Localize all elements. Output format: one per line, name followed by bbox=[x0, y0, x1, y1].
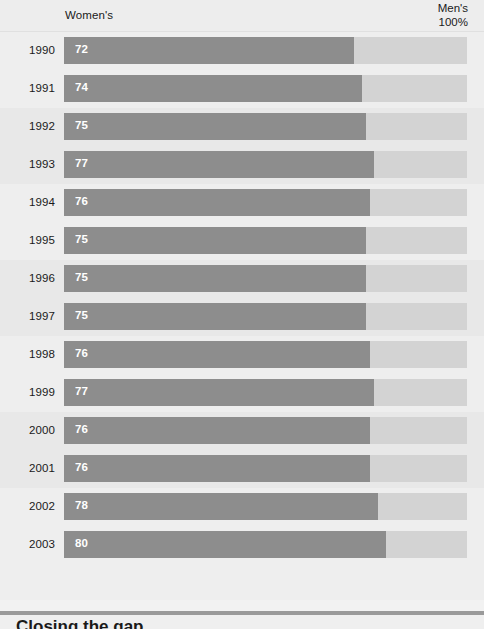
bar-fill: 77 bbox=[64, 379, 374, 406]
bar-value-label: 78 bbox=[75, 499, 88, 511]
bar-fill: 80 bbox=[64, 531, 386, 558]
row-year-label: 1998 bbox=[0, 348, 55, 360]
bar-track: 75 bbox=[64, 265, 467, 292]
table-row: 199476 bbox=[0, 184, 484, 222]
bar-value-label: 76 bbox=[75, 423, 88, 435]
bar-value-label: 75 bbox=[75, 119, 88, 131]
row-year-label: 2000 bbox=[0, 424, 55, 436]
row-year-label: 1996 bbox=[0, 272, 55, 284]
row-year-label: 2003 bbox=[0, 538, 55, 550]
chart-page: Women's Men's 100% 199072199174199275199… bbox=[0, 0, 484, 629]
bar-track: 75 bbox=[64, 113, 467, 140]
table-row: 199876 bbox=[0, 336, 484, 374]
table-row: 199377 bbox=[0, 146, 484, 184]
bar-fill: 74 bbox=[64, 75, 362, 102]
table-row: 200076 bbox=[0, 412, 484, 450]
row-year-label: 1993 bbox=[0, 158, 55, 170]
bar-track: 75 bbox=[64, 227, 467, 254]
bar-fill: 75 bbox=[64, 303, 366, 330]
bar-value-label: 75 bbox=[75, 233, 88, 245]
bar-track: 77 bbox=[64, 151, 467, 178]
bar-value-label: 74 bbox=[75, 81, 88, 93]
bar-fill: 75 bbox=[64, 265, 366, 292]
footer-gap bbox=[0, 600, 484, 611]
chart-header: Women's Men's 100% bbox=[0, 0, 484, 31]
footer-divider bbox=[0, 611, 484, 615]
bar-fill: 75 bbox=[64, 227, 366, 254]
bar-value-label: 75 bbox=[75, 309, 88, 321]
bar-value-label: 76 bbox=[75, 461, 88, 473]
bar-value-label: 72 bbox=[75, 43, 88, 55]
bar-track: 76 bbox=[64, 189, 467, 216]
axis-label-mens-line2: 100% bbox=[438, 16, 468, 30]
axis-label-mens-line1: Men's bbox=[438, 2, 468, 16]
bar-fill: 76 bbox=[64, 417, 370, 444]
row-year-label: 1991 bbox=[0, 82, 55, 94]
row-year-label: 1995 bbox=[0, 234, 55, 246]
table-row: 200176 bbox=[0, 450, 484, 488]
table-row: 200380 bbox=[0, 526, 484, 564]
chart-panel: Women's Men's 100% 199072199174199275199… bbox=[0, 0, 484, 600]
bar-fill: 75 bbox=[64, 113, 366, 140]
table-row: 199675 bbox=[0, 260, 484, 298]
row-year-label: 1990 bbox=[0, 44, 55, 56]
bar-value-label: 76 bbox=[75, 347, 88, 359]
bar-track: 74 bbox=[64, 75, 467, 102]
table-row: 199775 bbox=[0, 298, 484, 336]
table-row: 199275 bbox=[0, 108, 484, 146]
bar-value-label: 76 bbox=[75, 195, 88, 207]
row-year-label: 1994 bbox=[0, 196, 55, 208]
bar-fill: 78 bbox=[64, 493, 378, 520]
bar-track: 76 bbox=[64, 455, 467, 482]
table-row: 199575 bbox=[0, 222, 484, 260]
footer-caption: Closing the gap bbox=[16, 617, 466, 629]
table-row: 200278 bbox=[0, 488, 484, 526]
bar-fill: 76 bbox=[64, 341, 370, 368]
row-year-label: 2002 bbox=[0, 500, 55, 512]
bar-track: 78 bbox=[64, 493, 467, 520]
row-year-label: 1992 bbox=[0, 120, 55, 132]
bar-rows: 1990721991741992751993771994761995751996… bbox=[0, 32, 484, 564]
bar-fill: 76 bbox=[64, 455, 370, 482]
bar-fill: 77 bbox=[64, 151, 374, 178]
table-row: 199174 bbox=[0, 70, 484, 108]
bar-value-label: 77 bbox=[75, 385, 88, 397]
row-year-label: 1999 bbox=[0, 386, 55, 398]
axis-label-womens: Women's bbox=[65, 9, 113, 21]
bar-track: 80 bbox=[64, 531, 467, 558]
axis-label-mens: Men's 100% bbox=[438, 2, 468, 29]
table-row: 199072 bbox=[0, 32, 484, 70]
bar-value-label: 80 bbox=[75, 537, 88, 549]
bar-track: 75 bbox=[64, 303, 467, 330]
bar-value-label: 75 bbox=[75, 271, 88, 283]
row-year-label: 2001 bbox=[0, 462, 55, 474]
bar-fill: 72 bbox=[64, 37, 354, 64]
bar-value-label: 77 bbox=[75, 157, 88, 169]
table-row: 199977 bbox=[0, 374, 484, 412]
bar-track: 76 bbox=[64, 417, 467, 444]
bar-fill: 76 bbox=[64, 189, 370, 216]
bar-track: 77 bbox=[64, 379, 467, 406]
bar-track: 72 bbox=[64, 37, 467, 64]
row-year-label: 1997 bbox=[0, 310, 55, 322]
bar-track: 76 bbox=[64, 341, 467, 368]
